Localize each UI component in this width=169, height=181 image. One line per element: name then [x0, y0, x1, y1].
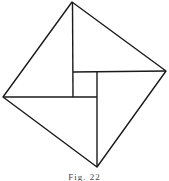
pythagorean-dissection-diagram [0, 0, 169, 181]
inner-segment-top-vertical [73, 2, 74, 97]
figure-caption: Fig. 22 [0, 172, 169, 181]
inner-segment-right-horizontal [73, 71, 166, 72]
outer-tilted-square [3, 2, 166, 167]
